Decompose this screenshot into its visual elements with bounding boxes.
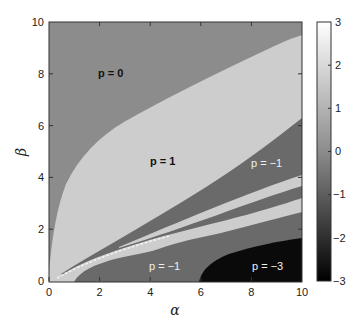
y-axis-label: β: [13, 148, 29, 157]
y-tick-2: 2: [38, 223, 44, 235]
x-tick-10: 10: [296, 286, 308, 298]
cb-tick-m3: −3: [333, 275, 346, 287]
label-pm3: p = −3: [252, 260, 283, 272]
label-pm1-lower: p = −1: [149, 260, 180, 272]
colorbar: 3 2 1 0 −1 −2 −3: [317, 16, 346, 287]
cb-tick-1: 1: [335, 102, 341, 114]
plot-area: p = 0 p = 1 p = −1 p = −1 p = −3: [49, 22, 302, 282]
label-pm1-upper: p = −1: [251, 157, 282, 169]
cb-tick-m1: −1: [333, 188, 346, 200]
x-tick-2: 2: [97, 286, 103, 298]
y-tick-6: 6: [38, 120, 44, 132]
label-p0: p = 0: [98, 67, 123, 79]
phase-diagram-chart: p = 0 p = 1 p = −1 p = −1 p = −3 0 2 4 6…: [0, 0, 363, 321]
label-p1: p = 1: [150, 155, 175, 167]
cb-tick-0: 0: [335, 145, 341, 157]
cb-tick-2: 2: [335, 59, 341, 71]
x-axis-label: α: [170, 302, 180, 318]
cb-tick-3: 3: [335, 16, 341, 28]
y-tick-8: 8: [38, 68, 44, 80]
x-tick-0: 0: [46, 286, 52, 298]
cb-tick-m2: −2: [333, 232, 346, 244]
x-tick-6: 6: [198, 286, 204, 298]
x-tick-4: 4: [147, 286, 153, 298]
y-tick-0: 0: [38, 275, 44, 287]
y-tick-10: 10: [32, 16, 44, 28]
x-tick-8: 8: [248, 286, 254, 298]
y-tick-4: 4: [38, 171, 44, 183]
